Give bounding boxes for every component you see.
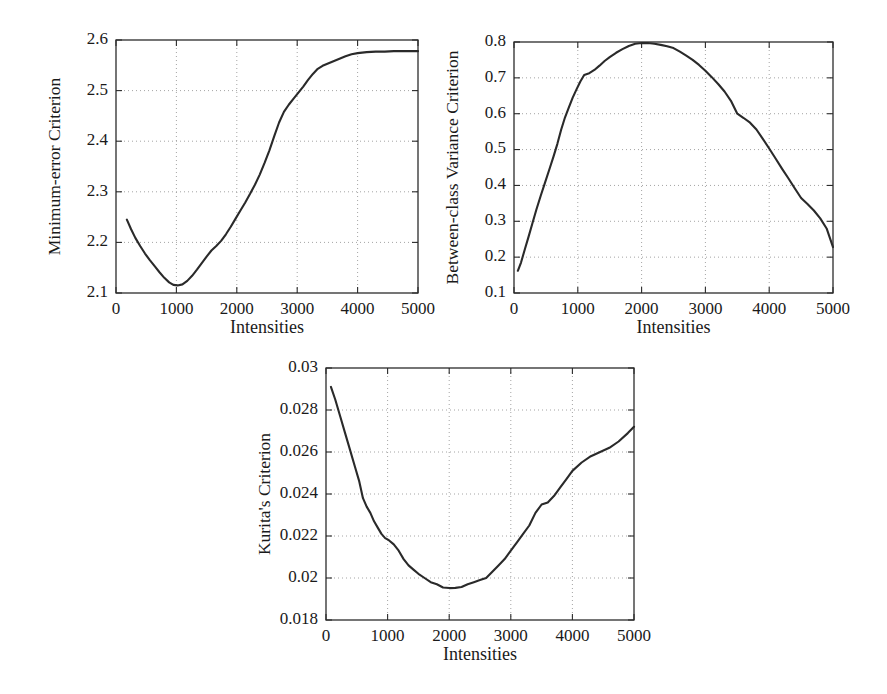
y-tick-label: 0.4 [485, 174, 507, 193]
y-tick-label: 0.018 [280, 609, 318, 628]
y-tick-label: 0.02 [288, 567, 318, 586]
y-axis-title: Minimum-error Criterion [44, 78, 64, 256]
y-tick-label: 0.3 [485, 210, 506, 229]
x-tick-label: 2000 [220, 299, 254, 318]
y-tick-label: 0.026 [280, 441, 318, 460]
x-tick-label: 0 [112, 299, 121, 318]
y-tick-label: 0.5 [485, 138, 506, 157]
x-tick-label: 5000 [401, 299, 435, 318]
x-axis-title: Intensities [637, 317, 711, 337]
between-class-variance-criterion-chart: 0.10.20.30.40.50.60.70.80100020003000400… [440, 20, 880, 360]
x-tick-label: 2000 [432, 626, 466, 645]
data-curve [331, 387, 634, 588]
x-tick-label: 3000 [494, 626, 528, 645]
y-axis-title: Kurita's Criterion [254, 433, 274, 555]
x-tick-label: 5000 [617, 626, 651, 645]
x-axis-title: Intensities [443, 644, 517, 664]
x-tick-label: 1000 [371, 626, 405, 645]
plot-frame [116, 40, 418, 293]
y-tick-label: 0.1 [485, 282, 506, 301]
plot-frame [326, 368, 634, 620]
y-tick-label: 0.024 [280, 483, 319, 502]
y-axis-title: Between-class Variance Criterion [442, 50, 462, 284]
y-tick-label: 0.03 [288, 357, 318, 376]
kuritas-criterion-chart: 0.0180.020.0220.0240.0260.0280.030100020… [236, 348, 676, 688]
y-tick-label: 2.2 [87, 231, 108, 250]
between-class-variance-panel-svg: 0.10.20.30.40.50.60.70.80100020003000400… [440, 20, 880, 360]
x-tick-label: 3000 [688, 299, 722, 318]
y-tick-label: 0.6 [485, 103, 506, 122]
y-tick-label: 2.4 [87, 130, 109, 149]
x-tick-label: 5000 [816, 299, 850, 318]
grid [116, 40, 418, 293]
figure-three-criteria-plots: 2.12.22.32.42.52.6010002000300040005000I… [0, 0, 887, 694]
y-tick-label: 0.028 [280, 399, 318, 418]
plot-frame [514, 42, 833, 293]
x-tick-label: 1000 [159, 299, 193, 318]
y-tick-label: 0.022 [280, 525, 318, 544]
axis-ticks: 0.10.20.30.40.50.60.70.80100020003000400… [485, 31, 850, 318]
minimum-error-criterion-chart: 2.12.22.32.42.52.6010002000300040005000I… [28, 20, 448, 360]
data-curve [518, 43, 833, 271]
data-curve [127, 51, 418, 285]
x-tick-label: 4000 [752, 299, 786, 318]
minimum-error-panel-svg: 2.12.22.32.42.52.6010002000300040005000I… [28, 20, 448, 360]
y-tick-label: 0.2 [485, 246, 506, 265]
y-tick-label: 2.5 [87, 80, 108, 99]
y-tick-label: 2.6 [87, 29, 108, 48]
grid [326, 368, 634, 620]
x-tick-label: 2000 [625, 299, 659, 318]
x-tick-label: 1000 [561, 299, 595, 318]
kuritas-criterion-panel-svg: 0.0180.020.0220.0240.0260.0280.030100020… [236, 348, 676, 688]
y-tick-label: 0.8 [485, 31, 506, 50]
y-tick-label: 2.3 [87, 181, 108, 200]
x-tick-label: 3000 [280, 299, 314, 318]
x-axis-title: Intensities [230, 317, 304, 337]
x-tick-label: 0 [510, 299, 519, 318]
x-tick-label: 0 [322, 626, 331, 645]
grid [514, 42, 833, 293]
x-tick-label: 4000 [555, 626, 589, 645]
x-tick-label: 4000 [341, 299, 375, 318]
y-tick-label: 2.1 [87, 282, 108, 301]
y-tick-label: 0.7 [485, 67, 507, 86]
